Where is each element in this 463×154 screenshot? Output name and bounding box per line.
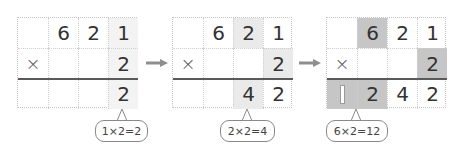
multiply-sign: × xyxy=(173,48,203,78)
cell-hundreds-multiplicand: 6 xyxy=(357,18,387,48)
cell: 1 xyxy=(263,18,293,48)
cell-product-ones: 2 xyxy=(108,79,138,109)
multiply-sign: × xyxy=(327,48,357,78)
cell xyxy=(203,79,233,109)
cell xyxy=(357,48,387,78)
cell xyxy=(387,48,417,78)
cell: 6 xyxy=(203,18,233,48)
cell-product-thousands xyxy=(327,79,357,109)
hollow-digit-one xyxy=(340,85,345,104)
step-1-panel: 6 2 1 × 2 2 xyxy=(17,17,137,108)
step-3-callout: 6×2=12 xyxy=(326,120,388,142)
sum-rule xyxy=(18,78,138,80)
cell-product-ones: 2 xyxy=(417,79,447,109)
cell xyxy=(18,79,48,109)
cell xyxy=(48,48,78,78)
cell-tens-multiplicand: 2 xyxy=(233,18,263,48)
step-1-callout: 1×2=2 xyxy=(95,120,148,142)
step-2-panel: 6 2 1 × 2 4 2 xyxy=(172,17,292,108)
digit-grid: 6 2 1 × 2 4 2 xyxy=(172,17,292,108)
right-arrow-icon xyxy=(146,59,168,67)
cell-product-ones: 2 xyxy=(263,79,293,109)
sum-rule xyxy=(173,78,293,80)
right-arrow-icon xyxy=(299,59,321,67)
cell-multiplier: 2 xyxy=(108,48,138,78)
cell-product-tens: 4 xyxy=(233,79,263,109)
cell xyxy=(78,48,108,78)
cell xyxy=(173,79,203,109)
cell xyxy=(78,79,108,109)
cell: 2 xyxy=(78,18,108,48)
step-3-panel: 6 2 1 × 2 2 4 2 xyxy=(326,17,446,108)
cell-product-hundreds: 2 xyxy=(357,79,387,109)
cell xyxy=(48,79,78,109)
cell xyxy=(327,18,357,48)
cell xyxy=(203,48,233,78)
step-2-callout: 2×2=4 xyxy=(220,120,275,142)
cell-product-tens: 4 xyxy=(387,79,417,109)
multiply-sign: × xyxy=(18,48,48,78)
sum-rule xyxy=(327,78,447,80)
cell xyxy=(18,18,48,48)
cell: 2 xyxy=(387,18,417,48)
cell-ones-multiplicand: 1 xyxy=(108,18,138,48)
cell xyxy=(173,18,203,48)
cell xyxy=(233,48,263,78)
cell-multiplier: 2 xyxy=(417,48,447,78)
cell: 6 xyxy=(48,18,78,48)
digit-grid: 6 2 1 × 2 2 4 2 xyxy=(326,17,446,108)
cell-multiplier: 2 xyxy=(263,48,293,78)
digit-grid: 6 2 1 × 2 2 xyxy=(17,17,137,108)
cell: 1 xyxy=(417,18,447,48)
